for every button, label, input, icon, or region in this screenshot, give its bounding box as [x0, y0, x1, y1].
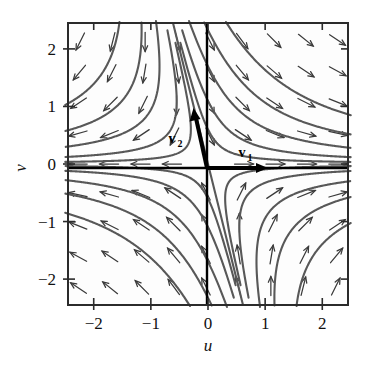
x-tick-label: −2 — [85, 314, 103, 333]
eigenvector-v1-subscript: 1 — [248, 152, 253, 163]
x-axis-label: u — [204, 336, 213, 355]
x-tick-label: −1 — [142, 314, 160, 333]
eigenvector-v1-label: v — [239, 145, 246, 160]
eigenvector-v2-label: v — [169, 131, 176, 146]
x-axis-tick-labels: −2−1012 — [85, 314, 327, 333]
x-tick-label: 1 — [261, 314, 270, 333]
y-tick-label: 2 — [48, 40, 57, 59]
phase-portrait-figure: v 1 v 2 −2−1012 −2−1012 u v — [0, 0, 370, 371]
y-axis-tick-labels: −2−1012 — [38, 40, 56, 289]
y-tick-label: −2 — [38, 270, 56, 289]
x-tick-label: 2 — [318, 314, 327, 333]
y-axis-label: v — [11, 164, 30, 172]
y-tick-label: 0 — [48, 155, 57, 174]
x-tick-label: 0 — [204, 314, 213, 333]
eigenvector-v2-subscript: 2 — [178, 138, 183, 149]
y-tick-label: 1 — [48, 97, 57, 116]
phase-plane-plot: v 1 v 2 −2−1012 −2−1012 u v — [0, 0, 370, 371]
y-tick-label: −1 — [38, 213, 56, 232]
